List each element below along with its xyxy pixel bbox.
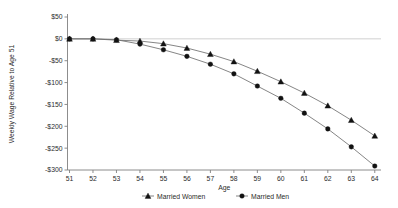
x-tick-label: 61 xyxy=(301,175,309,182)
data-point-marker xyxy=(372,164,377,169)
x-tick-label: 51 xyxy=(66,175,74,182)
y-tick-label: -$50 xyxy=(49,57,63,64)
data-point-marker xyxy=(326,127,331,132)
x-tick-label: 52 xyxy=(89,175,97,182)
data-point-marker xyxy=(232,72,237,77)
data-point-marker xyxy=(67,37,72,42)
y-tick-label: -$250 xyxy=(45,145,63,152)
y-tick-label: -$100 xyxy=(45,79,63,86)
y-axis-title: Weekly Wage Relative to Age 51 xyxy=(8,44,16,143)
data-point-marker xyxy=(138,42,143,47)
y-tick-label: -$150 xyxy=(45,101,63,108)
y-tick-label: $0 xyxy=(55,35,63,42)
data-point-marker xyxy=(114,37,119,42)
data-point-marker xyxy=(161,47,166,52)
x-tick-label: 55 xyxy=(160,175,168,182)
data-point-marker xyxy=(185,54,190,59)
x-tick-label: 57 xyxy=(207,175,215,182)
data-point-marker xyxy=(255,84,260,89)
x-tick-label: 54 xyxy=(136,175,144,182)
y-tick-label: -$200 xyxy=(45,123,63,130)
x-tick-label: 64 xyxy=(371,175,379,182)
data-point-marker xyxy=(240,194,245,199)
x-tick-label: 62 xyxy=(324,175,332,182)
data-point-marker xyxy=(279,96,284,101)
x-tick-label: 58 xyxy=(230,175,238,182)
chart-container: $50$0-$50-$100-$150-$200-$250-$300 51525… xyxy=(0,0,398,208)
x-tick-label: 53 xyxy=(113,175,121,182)
y-tick-label: -$300 xyxy=(45,166,63,173)
data-point-marker xyxy=(208,62,213,67)
x-tick-label: 56 xyxy=(183,175,191,182)
x-tick-label: 63 xyxy=(348,175,356,182)
y-tick-label: $50 xyxy=(51,13,63,20)
legend-label: Married Men xyxy=(251,193,289,200)
x-axis-title: Age xyxy=(218,184,230,192)
legend-label: Married Women xyxy=(157,193,205,200)
x-tick-label: 59 xyxy=(254,175,262,182)
data-point-marker xyxy=(302,111,307,116)
x-tick-label: 60 xyxy=(277,175,285,182)
line-chart: $50$0-$50-$100-$150-$200-$250-$300 51525… xyxy=(0,0,398,208)
data-point-marker xyxy=(349,145,354,150)
data-point-marker xyxy=(91,37,96,42)
